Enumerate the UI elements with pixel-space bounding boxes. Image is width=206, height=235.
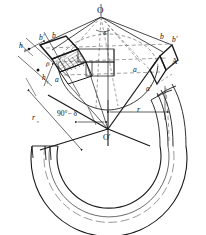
label-radius-rv-sub: v — [37, 119, 39, 124]
label-b-left: b — [52, 31, 56, 40]
lower-cone-thin-lines — [68, 62, 108, 129]
label-b-left-prime: b′ — [39, 33, 45, 42]
label-a-mid: a — [133, 65, 137, 74]
label-beta: β — [45, 60, 50, 68]
gear-body-annulus — [31, 146, 187, 235]
label-hf: h — [42, 73, 46, 82]
label-radius-rv: r — [32, 113, 36, 122]
label-delta: δ — [103, 29, 107, 37]
annulus-inner-edge — [57, 146, 161, 208]
label-radius-r: r — [137, 105, 141, 114]
annulus-secondary-rib — [49, 146, 169, 217]
dimension-tick-dots — [28, 48, 40, 72]
generator-left-mid — [52, 17, 101, 50]
label-a-left: a — [55, 75, 59, 84]
annulus-mid-rib — [44, 146, 174, 222]
bevel-gear-cone-figure: O δ O′ 90°− δ r r v h a h f b′ b b b′ β … — [0, 0, 206, 235]
annulus-outer-edge — [31, 146, 187, 235]
label-point-A: A — [172, 57, 178, 66]
label-center-O-prime: O′ — [103, 133, 111, 142]
label-ha-sub: a — [24, 47, 26, 52]
label-b-right: b — [160, 32, 164, 41]
label-a-prime: a′ — [146, 84, 152, 93]
label-apex-O: O — [97, 5, 104, 15]
label-b-right-prime: b′ — [172, 35, 178, 44]
right-lower-line — [108, 129, 150, 146]
diagram-canvas: O δ O′ 90°− δ r r v h a h f b′ b b b′ β … — [0, 0, 206, 235]
label-complement-angle: 90°− δ — [57, 109, 78, 118]
label-ha: h — [19, 41, 23, 50]
left-lower-line — [40, 129, 108, 150]
generator-right-mid — [101, 17, 163, 52]
annulus-right-end — [151, 84, 186, 146]
